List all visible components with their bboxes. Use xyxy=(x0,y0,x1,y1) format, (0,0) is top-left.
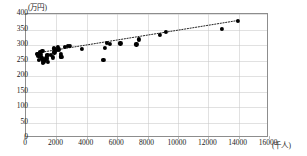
x-tick-label: 10000 xyxy=(168,139,187,147)
plot-area xyxy=(25,13,268,137)
trendline xyxy=(26,14,267,136)
y-tick-label: 50 xyxy=(21,118,29,126)
x-tick-label: 14000 xyxy=(228,139,247,147)
x-tick-label: 8000 xyxy=(139,139,154,147)
scatter-chart: (万円) (千人) 050100150200250300350400 02000… xyxy=(0,0,307,156)
y-tick-label: 300 xyxy=(17,40,28,48)
x-tick-label: 6000 xyxy=(109,139,124,147)
y-tick-label: 350 xyxy=(17,25,28,33)
y-axis-unit-label: (万円) xyxy=(28,1,47,12)
y-tick-label: 400 xyxy=(17,9,28,17)
x-tick-label: 4000 xyxy=(78,139,93,147)
x-tick-label: 2000 xyxy=(48,139,63,147)
y-tick-label: 250 xyxy=(17,56,28,64)
y-tick-label: 150 xyxy=(17,87,28,95)
x-tick-label: 12000 xyxy=(198,139,217,147)
x-tick-label: 16000 xyxy=(259,139,278,147)
y-tick-label: 100 xyxy=(17,102,28,110)
y-tick-label: 200 xyxy=(17,71,28,79)
x-tick-label: 0 xyxy=(23,139,27,147)
